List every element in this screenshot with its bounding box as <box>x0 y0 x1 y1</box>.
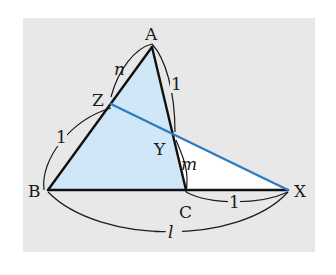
segment-label-zb: 1 <box>56 127 67 147</box>
segment-label-bx: l <box>168 222 173 242</box>
segment-label-bx-dash: − <box>153 221 167 241</box>
menelaus-diagram: A B C X Y Z n 1 1 m 1 − l <box>0 0 336 275</box>
segment-label-yc: m <box>181 154 197 174</box>
segment-label-ay: 1 <box>171 74 182 94</box>
point-label-c: C <box>179 202 192 222</box>
point-label-b: B <box>28 181 41 201</box>
point-label-x: X <box>294 181 307 201</box>
segment-label-az: n <box>114 59 125 79</box>
point-label-a: A <box>144 24 158 44</box>
segment-label-cx: 1 <box>229 192 240 212</box>
point-label-y: Y <box>153 139 166 159</box>
point-label-z: Z <box>92 90 104 110</box>
